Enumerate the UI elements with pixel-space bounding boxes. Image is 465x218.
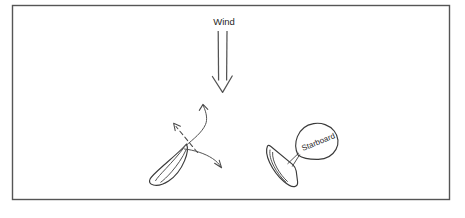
wind-arrow <box>212 31 232 92</box>
right-boat-boom-line <box>292 155 299 166</box>
dashed-course-shaft <box>176 127 198 153</box>
right-boat: Starboard <box>267 123 338 186</box>
left-boat <box>150 144 188 185</box>
curved-bear-away-arrow <box>185 149 222 168</box>
wind-label: Wind <box>213 16 235 27</box>
curved-tack-arrow-up <box>186 104 208 145</box>
left-boat-deck-line <box>156 148 184 181</box>
dashed-course-arrow <box>174 123 198 152</box>
diagram-canvas: Wind <box>0 0 465 218</box>
starboard-label: Starboard <box>300 131 336 153</box>
curved-tack-shaft <box>186 107 207 146</box>
diagram-border <box>13 6 450 200</box>
sailing-diagram: Wind <box>0 0 465 218</box>
wind-arrowhead <box>212 76 232 92</box>
